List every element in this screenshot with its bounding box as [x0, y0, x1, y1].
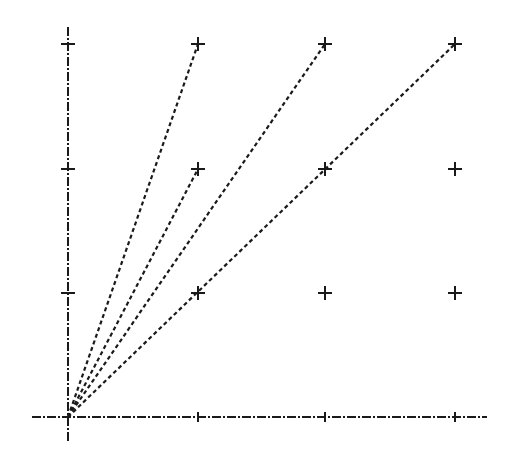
- plus-marker-icon: [191, 286, 205, 300]
- axes: [32, 27, 487, 443]
- plus-marker-icon: [448, 162, 462, 176]
- plus-marker-icon: [318, 37, 332, 51]
- ray-line: [68, 169, 198, 417]
- plus-marker-icon: [191, 162, 205, 176]
- ray-line: [68, 44, 198, 417]
- plus-marker-icon: [191, 37, 205, 51]
- plus-marker-icon: [448, 37, 462, 51]
- plus-marker-icon: [448, 286, 462, 300]
- ray-line: [68, 44, 455, 417]
- ray-line: [68, 44, 325, 417]
- lattice-diagram: [0, 0, 507, 466]
- dashed-rays: [68, 44, 455, 417]
- plus-marker-icon: [318, 286, 332, 300]
